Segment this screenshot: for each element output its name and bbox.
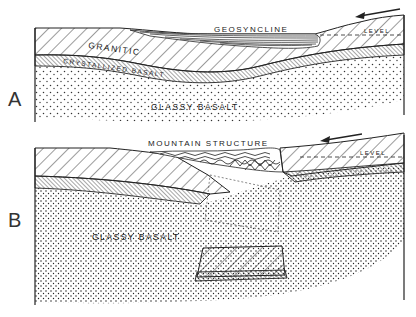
panel-b-title-mountain-structure: MOUNTAIN STRUCTURE — [148, 139, 269, 148]
panel-a: A GEOSYNCLINE GRANITIC CRYSTALLIZED BASA… — [8, 9, 404, 123]
panel-a-level-label: LEVEL — [364, 28, 390, 34]
panel-a-glassy-basalt-label: GLASSY BASALT — [151, 102, 239, 112]
panel-b: B MOUNTAIN STRUCTURE GLASSY BASALT LEVEL — [8, 133, 404, 305]
panel-b-level-label: LEVEL — [360, 150, 386, 156]
panel-a-title-geosyncline: GEOSYNCLINE — [214, 25, 288, 34]
panel-b-label: B — [8, 209, 21, 231]
geologic-cross-section-diagram: A GEOSYNCLINE GRANITIC CRYSTALLIZED BASA… — [0, 0, 416, 317]
panel-b-glassy-basalt-label: GLASSY BASALT — [92, 232, 180, 242]
panel-a-label: A — [8, 88, 22, 110]
